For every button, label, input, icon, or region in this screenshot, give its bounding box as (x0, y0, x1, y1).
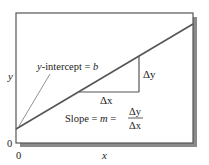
x-origin-label: 0 (16, 150, 21, 161)
slope-denominator: Δx (129, 120, 142, 131)
y-origin-label: 0 (7, 138, 12, 149)
slope-formula-text: Slope = m = (65, 113, 116, 124)
y-axis-label: y (7, 70, 13, 82)
slope-intercept-diagram: y-intercept = b Δy Δx Slope = m = Δy Δx … (0, 0, 209, 165)
delta-y-label: Δy (143, 68, 156, 80)
slope-numerator: Δy (129, 106, 142, 117)
intercept-value: b (93, 61, 98, 72)
x-axis-label: x (101, 149, 107, 161)
intercept-label: y-intercept = b (36, 61, 98, 72)
delta-x-label: Δx (100, 94, 113, 106)
slope-equals: = (108, 113, 117, 124)
slope-prefix: Slope = (65, 113, 100, 124)
intercept-text: -intercept = (42, 61, 93, 72)
